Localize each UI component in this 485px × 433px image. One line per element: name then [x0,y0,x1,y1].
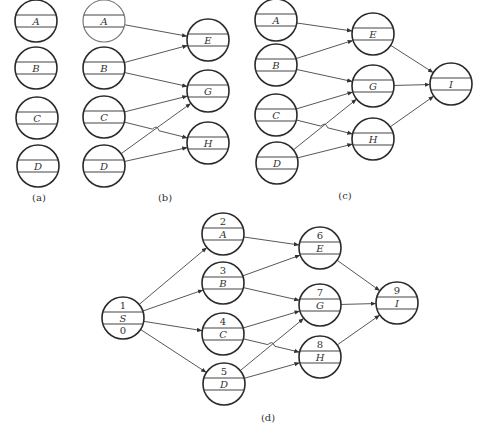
node-c-E: E [352,13,394,55]
node-d-S: S10 [102,297,144,339]
node-label: G [369,81,377,92]
node-label: B [218,278,226,289]
node-d-E: E6 [299,227,341,269]
nodes-layer: ABCDABCDEGHABCDEGHIS10A2B3C4D5E6G7H8I9 [15,0,472,405]
edge-d-B-G [243,288,299,301]
node-label: A [271,15,279,26]
node-label: G [204,86,212,97]
node-number: 3 [220,265,226,276]
node-b-A: A [83,0,125,42]
edge-d-D-H [244,363,299,378]
edge-d-S-C [144,321,202,330]
edge-c-H-I [390,96,433,127]
node-label: A [99,16,107,27]
node-d-D: D5 [203,363,245,405]
node-c-A: A [255,0,297,41]
node-b-B: B [83,47,125,89]
node-label: C [219,329,227,340]
node-label: B [31,63,39,74]
node-label: H [368,134,378,145]
node-c-I: I [430,63,472,105]
node-b-E: E [187,19,229,61]
node-label: G [316,300,324,311]
node-label: S [120,313,127,324]
node-d-G: G7 [299,284,341,326]
node-c-H: H [352,118,394,160]
caption-d: (d) [261,412,275,423]
node-a-D: D [17,145,59,187]
node-b-D: D [83,145,125,187]
edge-d-A-E [244,237,299,245]
node-d-A: A2 [202,213,244,255]
node-number: 7 [317,287,323,298]
node-number: 8 [317,339,323,350]
node-b-G: G [187,70,229,112]
caption-a: (a) [32,192,46,203]
edge-b-B-E [124,46,187,63]
node-a-B: B [15,47,57,89]
node-d-B: B3 [202,262,244,304]
node-b-C: C [83,96,125,138]
edge-d-S-A [139,248,206,305]
node-label: D [99,161,108,172]
node-b-H: H [187,122,229,164]
node-label: C [33,113,41,124]
edge-c-A-E [297,23,352,31]
edge-c-C-H [296,120,352,134]
node-a-A: A [15,0,57,42]
node-label: A [31,16,39,27]
edge-c-C-G [296,92,352,109]
node-label: D [219,379,228,390]
node-c-C: C [255,94,297,136]
node-label: H [203,138,213,149]
node-number: 1 [120,300,126,311]
edge-c-B-G [297,69,352,81]
caption-c: (c) [338,190,352,201]
edge-c-B-E [296,41,353,59]
edge-b-B-G [125,73,188,87]
edge-d-H-I [337,315,379,345]
node-number: 9 [394,285,400,296]
edge-b-D-G [121,104,191,154]
node-label: H [315,352,325,363]
edge-d-S-D [141,329,206,372]
edge-b-A-E [125,25,187,36]
edge-c-E-I [391,45,433,72]
network-diagram-figure: ABCDABCDEGHABCDEGHIS10A2B3C4D5E6G7H8I9 (… [0,0,485,433]
node-label: E [315,243,324,254]
node-c-D: D [256,142,298,184]
node-label: C [100,112,108,123]
edge-d-E-I [337,260,379,290]
node-c-B: B [255,44,297,86]
node-label: E [368,29,377,40]
node-label: C [272,110,280,121]
node-label: D [33,161,42,172]
node-label: B [271,60,279,71]
node-bottom-value: 0 [120,325,126,336]
node-number: 4 [220,316,226,327]
node-label: B [99,63,107,74]
edge-d-G-I [341,304,376,305]
edge-b-D-H [125,148,188,162]
node-d-I: I9 [376,282,418,324]
edge-c-D-H [297,144,352,158]
node-label: E [203,35,212,46]
node-label: A [218,229,226,240]
node-number: 5 [221,366,227,377]
node-d-H: H8 [299,336,341,378]
node-c-G: G [352,65,394,107]
node-number: 6 [317,230,323,241]
edge-d-B-E [243,255,300,276]
edge-d-C-G [243,311,299,328]
node-number: 2 [220,216,226,227]
edge-b-C-H [124,122,187,138]
caption-b: (b) [158,192,172,203]
node-a-C: C [16,97,58,139]
edge-b-C-G [124,96,187,112]
node-d-C: C4 [202,313,244,355]
edge-c-G-I [394,85,430,86]
node-label: D [272,158,281,169]
